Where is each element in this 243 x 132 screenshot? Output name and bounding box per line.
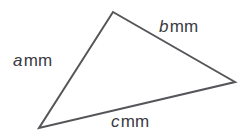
triangle-figure: amm bmm cmm [0, 0, 243, 132]
side-symbol-b: b [159, 17, 170, 36]
side-label-c: cmm [111, 113, 149, 130]
side-symbol-c: c [111, 112, 121, 131]
triangle-outline [39, 12, 235, 128]
side-unit-c: mm [121, 112, 150, 131]
side-unit-b: mm [170, 17, 199, 36]
side-unit-a: mm [24, 51, 53, 70]
side-symbol-a: a [13, 51, 24, 70]
side-label-b: bmm [159, 18, 198, 35]
side-label-a: amm [13, 52, 52, 69]
